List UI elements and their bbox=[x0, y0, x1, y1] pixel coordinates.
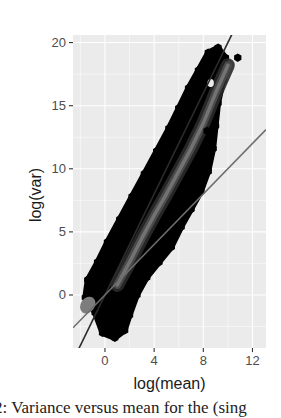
x-tick-label: 4 bbox=[151, 353, 158, 368]
y-tick-label: 0 bbox=[59, 287, 66, 302]
x-tick-label: 8 bbox=[200, 353, 207, 368]
y-tick-label: 10 bbox=[52, 161, 66, 176]
y-axis-ticks: 05101520 bbox=[52, 35, 73, 302]
x-axis-ticks: 04812 bbox=[101, 348, 259, 368]
x-tick-label: 12 bbox=[245, 353, 259, 368]
x-tick-label: 0 bbox=[101, 353, 108, 368]
y-axis-title: log(var) bbox=[27, 168, 44, 222]
x-axis-title: log(mean) bbox=[133, 375, 205, 392]
y-tick-label: 20 bbox=[52, 35, 66, 50]
figure-caption: 2: Variance versus mean for the (sing bbox=[0, 398, 247, 418]
y-tick-label: 5 bbox=[59, 224, 66, 239]
y-tick-label: 15 bbox=[52, 98, 66, 113]
